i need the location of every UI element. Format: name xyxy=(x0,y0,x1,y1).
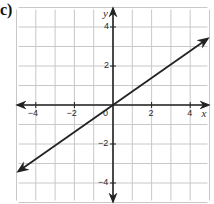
x-axis-label: x xyxy=(202,107,207,119)
x-tick-label: −4 xyxy=(28,109,38,118)
coordinate-plane-figure: c) −4−202442−2−4 x y xyxy=(0,0,214,204)
y-tick-label: 2 xyxy=(104,61,109,70)
x-tick-label: 0 xyxy=(103,109,108,118)
y-tick-label: 4 xyxy=(104,22,109,31)
y-axis-label: y xyxy=(103,7,108,19)
x-tick-label: 4 xyxy=(187,109,192,118)
y-tick-label: −4 xyxy=(98,178,108,187)
x-tick-label: 2 xyxy=(149,109,154,118)
y-tick-label: −2 xyxy=(98,139,108,148)
x-tick-label: −2 xyxy=(66,109,76,118)
part-label: c) xyxy=(0,1,12,19)
